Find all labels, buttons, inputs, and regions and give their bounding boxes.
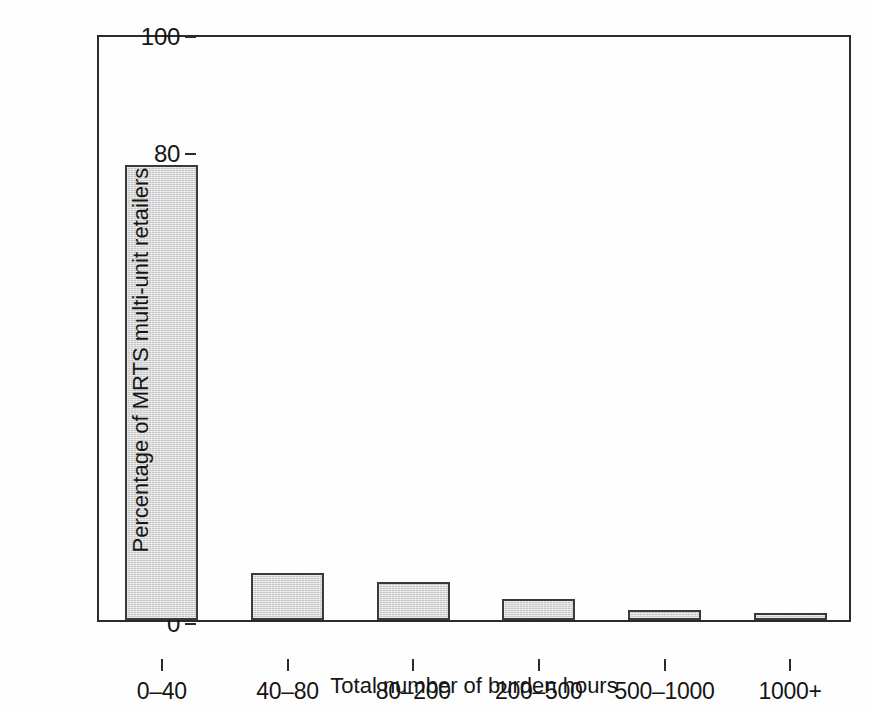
bar <box>502 599 575 620</box>
y-tick-label: 100 <box>141 22 180 52</box>
x-axis-title: Total number of burden hours <box>97 673 851 699</box>
y-tick-mark <box>185 153 196 155</box>
bar <box>377 582 450 620</box>
y-axis-title: Percentage of MRTS multi-unit retailers <box>128 60 154 660</box>
chart-page: 100 80 60 40 20 0 0– <box>0 0 875 715</box>
x-tick-mark <box>789 659 791 671</box>
x-tick-mark <box>412 659 414 671</box>
x-tick-mark <box>538 659 540 671</box>
bar <box>754 613 827 620</box>
y-tick-mark <box>185 623 196 625</box>
x-tick-mark <box>161 659 163 671</box>
bar <box>251 573 324 620</box>
bar <box>628 610 701 620</box>
x-tick-mark <box>287 659 289 671</box>
plot-area: 100 80 60 40 20 0 0– <box>97 35 851 622</box>
y-tick-mark <box>185 36 196 38</box>
x-tick-mark <box>664 659 666 671</box>
